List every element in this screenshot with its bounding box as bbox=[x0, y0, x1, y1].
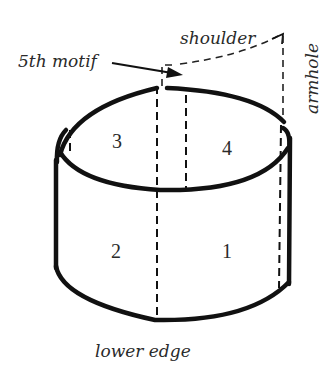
panel-1-number: 1 bbox=[222, 240, 232, 262]
bottom-edge bbox=[56, 266, 289, 320]
panel-2-number: 2 bbox=[111, 240, 121, 262]
fifth-motif-arrow bbox=[112, 63, 183, 78]
shoulder-label: shoulder bbox=[180, 28, 256, 48]
cylinder-sides bbox=[56, 138, 290, 284]
lower-edge-label: lower edge bbox=[95, 341, 191, 361]
armhole-label: armhole bbox=[302, 43, 322, 114]
cylinder-motif-diagram: shoulder 5th motif armhole lower edge 3 … bbox=[0, 0, 333, 382]
seam-lines bbox=[70, 86, 281, 320]
panel-4-number: 4 bbox=[222, 137, 232, 159]
top-rim bbox=[57, 88, 289, 190]
right-inner-seam bbox=[279, 125, 281, 288]
panel-3-number: 3 bbox=[112, 130, 122, 152]
fifth-motif-label: 5th motif bbox=[18, 51, 100, 71]
